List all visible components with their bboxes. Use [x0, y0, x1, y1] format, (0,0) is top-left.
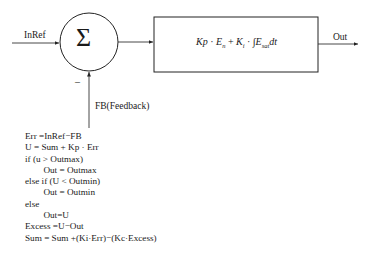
code-line: Sum = Sum +(Ki·Err)−(Kc·Excess) — [25, 233, 157, 244]
code-line: else if (U < Outmin) — [25, 176, 157, 187]
controller-formula: Kp · En + Ki · ∫Esatdt — [196, 36, 277, 49]
code-line: Out=U — [25, 210, 157, 221]
code-line: Out = Outmax — [25, 165, 157, 176]
code-line: U = Sum + Kp · Err — [25, 142, 157, 153]
code-line: if (u > Outmax) — [25, 154, 157, 165]
minus-sign: – — [75, 76, 80, 87]
inref-label: InRef — [24, 30, 46, 40]
pseudocode-block: Err =InRef−FB U = Sum + Kp · Err if (u >… — [25, 131, 157, 244]
sigma-icon: Σ — [76, 23, 91, 53]
code-line: Excess =U−Out — [25, 221, 157, 232]
output-label: Out — [333, 32, 347, 42]
code-line: Err =InRef−FB — [25, 131, 157, 142]
code-line: Out = Outmin — [25, 187, 157, 198]
feedback-label: FB(Feedback) — [95, 101, 149, 111]
code-line: else — [25, 199, 157, 210]
